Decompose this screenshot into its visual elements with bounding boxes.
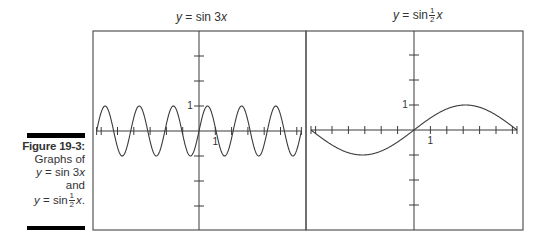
figure-label: Figure 19-3: bbox=[20, 140, 85, 153]
y-tick-label: 1 bbox=[402, 99, 408, 110]
axes bbox=[97, 31, 517, 230]
caption-bottom-bar bbox=[27, 226, 85, 230]
figure-caption: Figure 19-3: Graphs of y = sin 3x and y … bbox=[20, 140, 85, 209]
tick-labels: 1111 bbox=[187, 99, 433, 147]
x-tick-label: 1 bbox=[213, 136, 219, 147]
fraction-denominator: 2 bbox=[69, 201, 75, 209]
caption-line-3: and bbox=[20, 179, 85, 192]
caption-line-2: y = sin 3x bbox=[20, 166, 85, 179]
fraction-half: 12 bbox=[69, 192, 75, 209]
caption-line-1: Graphs of bbox=[20, 153, 85, 166]
eq-text: = sin 3 bbox=[42, 166, 79, 178]
caption-top-bar bbox=[27, 133, 85, 138]
eq-text: = sin bbox=[40, 194, 68, 206]
var-x: x bbox=[79, 166, 85, 178]
caption-line-4: y = sin12x. bbox=[20, 192, 85, 209]
y-tick-label: 1 bbox=[187, 100, 193, 111]
period: . bbox=[82, 194, 85, 206]
x-tick-label: 1 bbox=[428, 135, 434, 146]
